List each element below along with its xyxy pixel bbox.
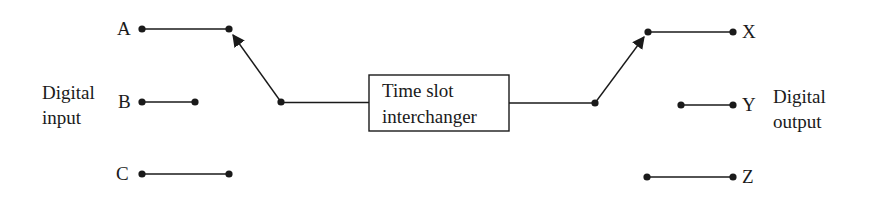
interchanger-label-line2: interchanger xyxy=(382,106,478,127)
terminal-dot xyxy=(138,98,145,105)
digital-input-label: Digital input xyxy=(42,82,95,128)
input-switch-arm xyxy=(233,35,285,106)
port-label-a: A xyxy=(117,18,131,39)
output-port-y: Y xyxy=(677,94,756,115)
interchanger-label-line1: Time slot xyxy=(382,80,454,101)
input-port-b: B xyxy=(118,91,199,112)
digital-output-label-line2: output xyxy=(773,111,822,132)
terminal-dot xyxy=(138,170,145,177)
digital-input-label-line2: input xyxy=(42,107,82,128)
terminal-dot xyxy=(729,101,736,108)
contact-dot xyxy=(225,25,232,32)
tsi-diagram: Digital input A B C Time slot interchang… xyxy=(0,0,869,224)
contact-dot xyxy=(225,170,232,177)
output-switch-arm xyxy=(591,37,644,107)
contact-dot xyxy=(191,98,198,105)
digital-input-label-line1: Digital xyxy=(42,82,95,103)
port-label-x: X xyxy=(742,21,756,42)
port-label-z: Z xyxy=(742,166,754,187)
terminal-dot xyxy=(729,28,736,35)
time-slot-interchanger-block: Time slot interchanger xyxy=(369,75,509,131)
input-port-a: A xyxy=(117,18,233,39)
arrow-icon xyxy=(595,37,644,103)
contact-dot xyxy=(644,28,651,35)
terminal-dot xyxy=(729,173,736,180)
output-port-z: Z xyxy=(643,166,753,187)
digital-output-label: Digital output xyxy=(773,86,826,132)
port-label-c: C xyxy=(116,163,129,184)
contact-dot xyxy=(677,101,684,108)
port-label-y: Y xyxy=(742,94,756,115)
input-port-c: C xyxy=(116,163,233,184)
output-port-x: X xyxy=(644,21,756,42)
digital-output-label-line1: Digital xyxy=(773,86,826,107)
arrow-icon xyxy=(233,35,281,102)
port-label-b: B xyxy=(118,91,131,112)
pivot-dot xyxy=(591,99,598,106)
contact-dot xyxy=(643,173,650,180)
terminal-dot xyxy=(138,25,145,32)
